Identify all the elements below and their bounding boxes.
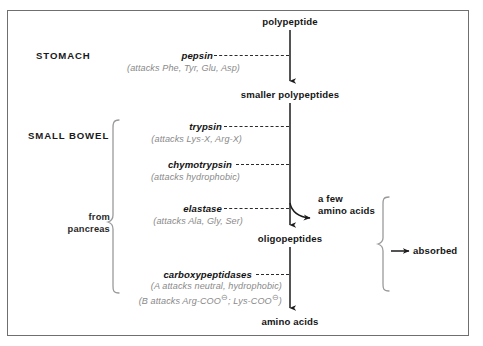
enzyme-attacks-carboxypeptidase-a: (A attacks neutral, hydrophobic) [151, 281, 282, 293]
enzyme-dash-chymotrypsin [236, 164, 289, 165]
node-absorbed: absorbed [413, 245, 457, 257]
enzyme-attacks-trypsin: (attacks Lys-X, Arg-X) [151, 134, 242, 146]
side-label-pancreas-line1: from [55, 211, 110, 223]
node-polypeptide: polypeptide [262, 16, 317, 28]
enzyme-label-pepsin: pepsin [181, 50, 213, 61]
node-oligopeptides: oligopeptides [258, 233, 322, 245]
side-label-pancreas-line2: pancreas [55, 223, 110, 235]
node-a-few-amino-acids-line1: a few [318, 193, 375, 205]
enzyme-dash-carboxypeptidases [256, 274, 289, 275]
region-label-small-bowel: SMALL BOWEL [28, 130, 109, 141]
carboxypeptidase-b-prefix: (B attacks Arg-COO [139, 296, 221, 306]
enzyme-label-elastase: elastase [183, 203, 222, 214]
node-a-few-amino-acids: a few amino acids [318, 193, 375, 216]
enzyme-dash-trypsin [224, 126, 289, 127]
diagram-canvas: STOMACH SMALL BOWEL from pancreas polype… [0, 0, 483, 346]
carboxypeptidase-b-suffix: ) [279, 296, 282, 306]
enzyme-label-carboxypeptidases: carboxypeptidases [163, 269, 252, 280]
enzyme-dash-pepsin [214, 55, 289, 56]
node-smaller-polypeptides: smaller polypeptides [241, 89, 339, 101]
carboxypeptidase-b-mid: ; Lys-COO [228, 296, 272, 306]
enzyme-attacks-carboxypeptidase-b: (B attacks Arg-COO⊖; Lys-COO⊖) [139, 292, 282, 308]
enzyme-attacks-elastase: (attacks Ala, Gly, Ser) [153, 216, 243, 228]
enzyme-label-chymotrypsin: chymotrypsin [168, 159, 232, 170]
node-a-few-amino-acids-line2: amino acids [318, 205, 375, 217]
enzyme-attacks-chymotrypsin: (attacks hydrophobic) [151, 172, 240, 184]
node-amino-acids: amino acids [261, 316, 318, 328]
enzyme-label-trypsin: trypsin [189, 121, 222, 132]
side-label-pancreas: from pancreas [55, 211, 110, 235]
enzyme-attacks-pepsin: (attacks Phe, Tyr, Glu, Asp) [127, 63, 240, 75]
enzyme-dash-elastase [224, 208, 289, 209]
region-label-stomach: STOMACH [36, 50, 91, 61]
